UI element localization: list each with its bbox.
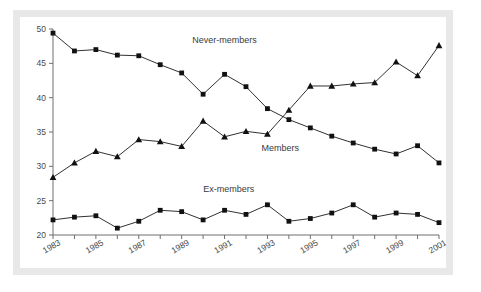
data-point	[243, 128, 250, 134]
data-point	[436, 42, 443, 48]
data-point	[286, 117, 291, 122]
data-point	[50, 174, 57, 180]
x-tick-label: 1985	[84, 237, 106, 255]
series-label-ex-members: Ex-members	[203, 184, 255, 194]
data-point	[415, 143, 420, 148]
data-point	[92, 148, 99, 154]
data-point	[115, 226, 120, 231]
data-point	[265, 106, 270, 111]
series-never-members	[51, 31, 442, 166]
y-tick-label: 35	[37, 127, 47, 137]
data-point	[222, 208, 227, 213]
data-point	[71, 160, 78, 166]
y-tick-label: 30	[37, 161, 47, 171]
y-axis: 20253035404550	[37, 24, 53, 240]
series-label-members: Members	[262, 143, 300, 153]
series-annotations: Never-membersMembersEx-members	[192, 35, 299, 195]
data-series-group	[50, 31, 443, 231]
data-point	[329, 134, 334, 139]
x-tick-label: 1995	[298, 237, 320, 255]
data-point	[437, 220, 442, 225]
data-point	[415, 212, 420, 217]
data-point	[394, 152, 399, 157]
x-tick-label: 1997	[341, 237, 363, 255]
data-point	[394, 211, 399, 216]
x-axis: 1983198519871989199119931995199719992001	[41, 235, 446, 255]
data-point	[308, 216, 313, 221]
data-point	[179, 209, 184, 214]
x-tick-label: 2001	[427, 237, 446, 255]
data-point	[372, 147, 377, 152]
data-point	[244, 212, 249, 217]
data-point	[372, 215, 377, 220]
data-point	[244, 84, 249, 89]
x-tick-label: 1991	[212, 237, 234, 255]
series-members	[50, 42, 443, 180]
data-point	[222, 72, 227, 77]
data-point	[351, 202, 356, 207]
data-point	[201, 92, 206, 97]
x-tick-label: 1999	[384, 237, 406, 255]
data-point	[308, 125, 313, 130]
data-point	[72, 215, 77, 220]
data-point	[51, 31, 56, 36]
x-tick-label: 1989	[169, 237, 191, 255]
data-point	[93, 47, 98, 52]
data-point	[158, 62, 163, 67]
data-point	[158, 208, 163, 213]
data-point	[437, 161, 442, 166]
data-point	[200, 118, 207, 124]
data-point	[265, 202, 270, 207]
data-point	[179, 71, 184, 76]
y-tick-label: 20	[37, 230, 47, 240]
chart-figure-frame: 20253035404550 1983198519871989199119931…	[13, 10, 453, 275]
data-point	[115, 53, 120, 58]
series-line	[53, 45, 439, 177]
x-tick-label: 1987	[127, 237, 149, 255]
data-point	[51, 217, 56, 222]
series-line	[53, 33, 439, 163]
series-label-never-members: Never-members	[192, 35, 257, 45]
x-tick-label: 1993	[255, 237, 277, 255]
data-point	[93, 213, 98, 218]
y-axis-ticks: 20253035404550	[37, 24, 53, 240]
y-tick-label: 45	[37, 58, 47, 68]
data-point	[136, 53, 141, 58]
data-point	[393, 59, 400, 65]
y-tick-label: 25	[37, 196, 47, 206]
data-point	[414, 72, 421, 78]
y-tick-label: 40	[37, 93, 47, 103]
data-point	[72, 49, 77, 54]
data-point	[286, 219, 291, 224]
data-point	[201, 217, 206, 222]
data-point	[135, 136, 142, 142]
data-point	[351, 141, 356, 146]
y-tick-label: 50	[37, 24, 47, 34]
data-point	[329, 211, 334, 216]
data-point	[136, 219, 141, 224]
series-ex-members	[51, 202, 442, 230]
line-chart: 20253035404550 1983198519871989199119931…	[20, 17, 446, 268]
x-axis-ticks: 1983198519871989199119931995199719992001	[41, 235, 446, 255]
